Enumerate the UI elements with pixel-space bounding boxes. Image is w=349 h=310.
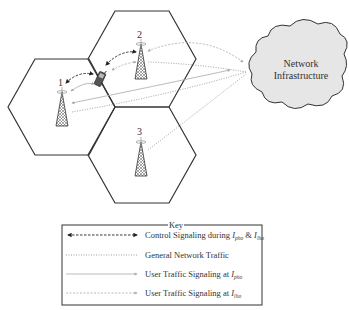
tower-1: 1 <box>56 77 68 126</box>
cell-grid <box>8 11 196 203</box>
legend: Key Control Signaling during Ipho & Ilho… <box>62 220 264 305</box>
user-traffic-phone-tower1 <box>71 83 94 91</box>
network-infrastructure-cloud: Network Infrastructure <box>249 19 347 108</box>
user-traffic-pho-line <box>72 70 230 103</box>
legend-label-general-traffic: General Network Traffic <box>145 250 229 260</box>
tower-3: 3 <box>135 126 147 176</box>
legend-label-user-traffic-lho: User Traffic Signaling at Ilho <box>145 288 241 299</box>
tower-3-icon <box>135 142 147 176</box>
network-handoff-diagram: 1 2 3 Network Infrastructure Key Control… <box>0 0 349 310</box>
tower-2: 2 <box>135 29 147 79</box>
tower-2-icon <box>135 44 147 79</box>
legend-label-control-signaling: Control Signaling during Ipho & Ilho <box>145 230 264 241</box>
tower-3-label: 3 <box>137 126 142 137</box>
tower-1-icon <box>56 92 68 126</box>
legend-title: Key <box>169 220 184 230</box>
legend-label-user-traffic-pho: User Traffic Signaling at Ipho <box>145 269 243 280</box>
control-signal-tower1-phone <box>66 73 93 83</box>
traffic-lines <box>71 43 246 150</box>
cloud-label-line1: Network <box>284 58 319 69</box>
general-traffic-line-2 <box>148 62 246 72</box>
tower-1-label: 1 <box>58 77 63 88</box>
cloud-label-line2: Infrastructure <box>274 70 329 81</box>
control-signal-phone-tower2 <box>106 52 136 65</box>
user-traffic-phone-tower2 <box>112 62 136 70</box>
tower-2-label: 2 <box>137 29 142 40</box>
